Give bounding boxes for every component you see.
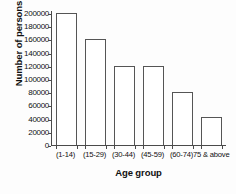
bar bbox=[143, 66, 164, 145]
bar bbox=[85, 39, 106, 145]
bar bbox=[201, 117, 222, 145]
y-axis-tick-label: 100000 bbox=[24, 75, 49, 85]
bar bbox=[56, 13, 77, 145]
y-axis-tick-label: 140000 bbox=[24, 49, 49, 59]
x-axis-title: Age group bbox=[51, 167, 226, 178]
y-axis-tick-label: 80000 bbox=[28, 88, 49, 98]
y-axis-tick-mark bbox=[48, 146, 51, 147]
y-axis-tick-mark bbox=[48, 120, 51, 121]
y-axis-tick-label: 20000 bbox=[28, 128, 49, 138]
y-axis-tick-mark bbox=[48, 106, 51, 107]
y-axis-tick-label: 60000 bbox=[28, 101, 49, 111]
bar-chart: Number of persons 0200004000060000800001… bbox=[0, 0, 236, 194]
y-axis-tick-mark bbox=[48, 93, 51, 94]
bar bbox=[114, 66, 135, 145]
y-axis-tick-mark bbox=[48, 40, 51, 41]
x-axis-tick-labels: (1-14)(15-29)(30-44)(45-59)(60-74)75 & a… bbox=[51, 149, 231, 161]
plot-area bbox=[51, 13, 226, 146]
y-axis-tick-label: 160000 bbox=[24, 35, 49, 45]
y-axis-tick-mark bbox=[48, 80, 51, 81]
bar-series bbox=[52, 13, 226, 145]
y-axis-tick-mark bbox=[48, 67, 51, 68]
y-axis-tick-label: 180000 bbox=[24, 22, 49, 32]
y-axis-tick-mark bbox=[48, 133, 51, 134]
y-axis-tick-label: 200000 bbox=[24, 9, 49, 19]
y-axis-tick-labels: 0200004000060000800001000001200001400001… bbox=[12, 13, 49, 146]
y-axis-tick-mark bbox=[48, 27, 51, 28]
y-axis-tick-label: 120000 bbox=[24, 62, 49, 72]
y-axis-tick-mark bbox=[48, 14, 51, 15]
bar bbox=[172, 92, 193, 145]
y-axis-tick-label: 40000 bbox=[28, 115, 49, 125]
y-axis-tick-mark bbox=[48, 54, 51, 55]
x-axis-tick-label: 75 & above bbox=[193, 149, 228, 161]
